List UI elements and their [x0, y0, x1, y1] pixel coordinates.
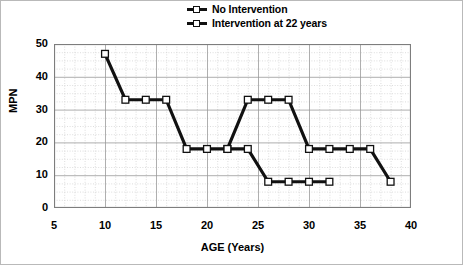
chart-legend: No Intervention Intervention at 22 years — [187, 3, 327, 29]
legend-label: Intervention at 22 years — [212, 18, 327, 29]
data-point-marker — [265, 96, 272, 103]
data-point-marker — [163, 96, 170, 103]
gridlines-minor — [54, 44, 411, 208]
data-point-marker — [387, 178, 394, 185]
x-axis-tick-label: 35 — [340, 220, 380, 231]
legend-marker-icon — [187, 4, 207, 15]
gridlines-major — [54, 44, 411, 208]
data-point-marker — [326, 146, 333, 153]
series-line — [227, 149, 329, 182]
data-point-marker — [346, 146, 353, 153]
data-point-marker — [285, 178, 292, 185]
legend-item-intervention-22: Intervention at 22 years — [187, 17, 327, 29]
legend-item-no-intervention: No Intervention — [187, 3, 327, 15]
data-point-marker — [142, 96, 149, 103]
data-point-marker — [306, 146, 313, 153]
data-point-marker — [183, 146, 190, 153]
legend-label: No Intervention — [212, 4, 288, 15]
legend-marker-icon — [187, 18, 207, 29]
data-point-marker — [367, 146, 374, 153]
y-axis-tick-label: 20 — [14, 136, 48, 147]
data-point-marker — [326, 178, 333, 185]
y-axis-tick-label: 40 — [14, 71, 48, 82]
data-point-marker — [122, 96, 129, 103]
data-point-marker — [102, 50, 109, 57]
x-axis-tick-label: 15 — [136, 220, 176, 231]
x-axis-tick-label: 10 — [85, 220, 125, 231]
y-axis-tick-label: 50 — [14, 38, 48, 49]
data-point-marker — [244, 96, 251, 103]
chart-svg — [54, 44, 411, 208]
x-axis-tick-label: 5 — [34, 220, 74, 231]
chart-frame: No Intervention Intervention at 22 years… — [0, 0, 463, 265]
data-point-marker — [204, 146, 211, 153]
x-axis-tick-label: 25 — [238, 220, 278, 231]
y-axis-tick-label: 0 — [14, 202, 48, 213]
x-axis-title: AGE (Years) — [1, 241, 464, 253]
plot-area — [54, 44, 411, 208]
data-point-marker — [306, 178, 313, 185]
data-point-marker — [224, 146, 231, 153]
x-axis-tick-label: 20 — [187, 220, 227, 231]
x-axis-tick-label: 40 — [391, 220, 431, 231]
data-point-marker — [285, 96, 292, 103]
data-point-marker — [265, 178, 272, 185]
series-intervention-22 — [224, 146, 333, 186]
series-line — [105, 54, 391, 182]
y-axis-tick-label: 10 — [14, 169, 48, 180]
data-point-marker — [244, 146, 251, 153]
plot-border — [55, 45, 411, 208]
x-axis-tick-label: 30 — [289, 220, 329, 231]
y-axis-tick-label: 30 — [14, 104, 48, 115]
